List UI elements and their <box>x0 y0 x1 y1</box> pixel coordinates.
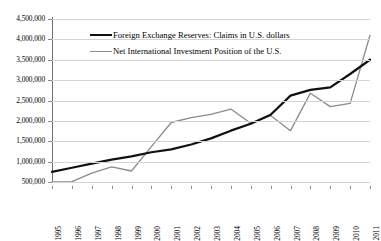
x-axis-tick-label: 2008 <box>313 226 320 241</box>
y-axis-tick <box>48 19 52 20</box>
x-axis-tick-labels: 1995199619971998199920002001200220032004… <box>0 186 378 230</box>
x-axis-tick-label: 1999 <box>135 226 142 241</box>
y-axis-tick-label: 1,500,000 <box>16 138 45 145</box>
x-axis-tick-label: 2001 <box>174 226 181 241</box>
series-line <box>52 60 370 172</box>
x-axis-tick-label: 2002 <box>194 226 201 241</box>
x-axis-tick <box>251 186 252 189</box>
y-axis-tick-label: 2,000,000 <box>16 117 45 124</box>
x-axis-tick-label: 1997 <box>95 226 102 241</box>
chart-legend: Foreign Exchange Reserves: Claims in U.S… <box>90 27 290 59</box>
y-axis-tick <box>48 60 52 61</box>
x-axis-tick <box>132 186 133 189</box>
y-axis-tick <box>48 141 52 142</box>
y-axis-tick <box>48 121 52 122</box>
x-axis-tick <box>271 186 272 189</box>
x-axis-tick <box>231 186 232 189</box>
y-axis-tick <box>48 80 52 81</box>
legend-line-icon <box>90 34 112 36</box>
gridline <box>52 60 370 61</box>
x-axis-tick-label: 2009 <box>333 226 340 241</box>
gridline <box>52 121 370 122</box>
y-axis-tick-label: 2,500,000 <box>16 97 45 104</box>
x-axis-tick <box>191 186 192 189</box>
x-axis-tick <box>171 186 172 189</box>
x-axis-tick <box>151 186 152 189</box>
x-axis-tick-label: 1996 <box>75 226 82 241</box>
x-axis-tick-label: 2003 <box>214 226 221 241</box>
x-axis-tick-label: 2005 <box>254 226 261 241</box>
y-axis-tick-label: 1,000,000 <box>16 158 45 165</box>
y-axis-tick <box>48 39 52 40</box>
x-axis-tick <box>370 186 371 189</box>
gridline <box>52 80 370 81</box>
x-axis-tick-label: 2010 <box>353 226 360 241</box>
x-axis-tick <box>112 186 113 189</box>
legend-label: Net International Investment Position of… <box>112 47 282 56</box>
gridline <box>52 141 370 142</box>
x-axis-tick-label: 1995 <box>55 226 62 241</box>
x-axis-tick <box>350 186 351 189</box>
y-axis-tick-label: 4,000,000 <box>16 36 45 43</box>
gridline <box>52 101 370 102</box>
x-axis-tick-label: 2000 <box>154 226 161 241</box>
x-axis-tick-label: 2004 <box>234 226 241 241</box>
x-axis-tick <box>72 186 73 189</box>
x-axis-tick <box>52 186 53 189</box>
gridline <box>52 162 370 163</box>
x-axis-tick <box>211 186 212 189</box>
y-axis-tick-label: 3,500,000 <box>16 56 45 63</box>
gridline <box>52 182 370 183</box>
x-axis-tick <box>92 186 93 189</box>
y-axis-tick-label: 500,000 <box>22 178 45 185</box>
y-axis-tick-label: 4,500,000 <box>16 15 45 22</box>
x-axis-tick <box>310 186 311 189</box>
legend-line-icon <box>90 51 112 52</box>
x-axis-tick-label: 1998 <box>115 226 122 241</box>
y-axis-tick <box>48 182 52 183</box>
x-axis-tick-label: 2007 <box>294 226 301 241</box>
legend-entry: Net International Investment Position of… <box>90 43 290 59</box>
x-axis-tick-label: 2011 <box>373 226 380 241</box>
y-axis-tick <box>48 101 52 102</box>
legend-label: Foreign Exchange Reserves: Claims in U.S… <box>112 31 290 40</box>
x-axis-tick-label: 2006 <box>274 226 281 241</box>
legend-entry: Foreign Exchange Reserves: Claims in U.S… <box>90 27 290 43</box>
y-axis-tick <box>48 162 52 163</box>
y-axis-tick-label: 3,000,000 <box>16 76 45 83</box>
x-axis-tick <box>330 186 331 189</box>
x-axis-tick <box>291 186 292 189</box>
gridline <box>52 19 370 20</box>
